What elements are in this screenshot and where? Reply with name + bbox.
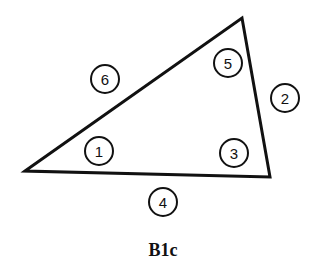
label-5: 5 <box>214 49 242 77</box>
label-2-text: 2 <box>281 90 289 107</box>
label-4-text: 4 <box>159 194 167 211</box>
label-3-text: 3 <box>230 145 238 162</box>
label-5-text: 5 <box>224 55 232 72</box>
label-3: 3 <box>220 139 248 167</box>
caption: B1c <box>149 240 178 260</box>
triangle-diagram: 6 5 2 1 3 4 B1c <box>0 0 329 266</box>
label-2: 2 <box>271 84 299 112</box>
label-1-text: 1 <box>95 143 103 160</box>
label-6: 6 <box>91 65 119 93</box>
label-4: 4 <box>149 188 177 216</box>
label-1: 1 <box>85 137 113 165</box>
label-6-text: 6 <box>101 71 109 88</box>
